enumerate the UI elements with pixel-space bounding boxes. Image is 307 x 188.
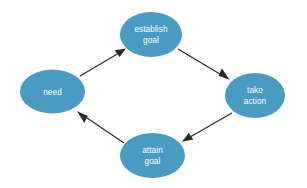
node-take-action[interactable]: take action [225,73,285,118]
cycle-diagram: need establish goal take action attain g… [0,0,307,188]
edge-establish-goal-to-take-action [178,49,230,80]
node-shape[interactable] [120,12,182,57]
edge-line [178,49,225,77]
node-label-attain-goal-line2: goal [145,157,161,166]
edge-group [77,49,232,144]
node-label-establish-goal-line2: goal [143,36,159,45]
edge-attain-goal-to-need [77,111,124,143]
node-shape[interactable] [120,133,185,178]
node-label-take-action-line2: action [244,97,267,106]
arrowhead-icon [77,111,88,123]
edge-take-action-to-attain-goal [182,113,232,142]
node-label-establish-goal-line1: establish [134,25,168,34]
edge-line [80,52,122,77]
node-label-take-action-line1: take [247,86,263,95]
edge-line [82,114,125,143]
node-label-need: need [43,88,62,97]
edge-line [187,113,232,139]
node-attain-goal[interactable]: attain goal [120,133,185,178]
node-label-attain-goal-line1: attain [142,146,163,155]
edge-need-to-establish-goal [80,49,126,77]
arrowhead-icon [182,133,193,142]
node-group: need establish goal take action attain g… [20,12,285,178]
node-shape[interactable] [225,73,285,118]
node-need[interactable]: need [20,70,85,114]
node-establish-goal[interactable]: establish goal [120,12,182,57]
arrowhead-icon [115,49,126,57]
arrowhead-icon [219,68,230,80]
diagram-canvas: need establish goal take action attain g… [0,0,307,188]
